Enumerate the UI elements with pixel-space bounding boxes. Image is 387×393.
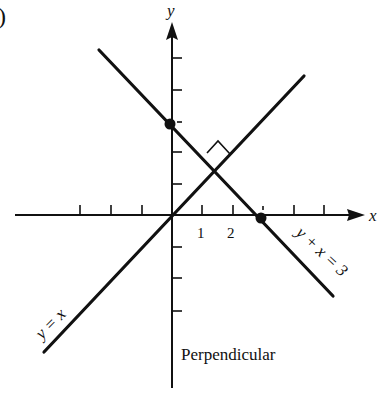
x-tick-label-1: 1 <box>197 225 205 241</box>
label-y-equals-x: y = x <box>30 304 70 344</box>
figure-label: ) <box>0 3 6 29</box>
line-y-plus-x-equals-3 <box>99 50 333 296</box>
caption: Perpendicular <box>181 345 276 364</box>
x-axis-ticks <box>80 205 324 215</box>
y-axis-ticks <box>172 58 182 311</box>
x-axis-label: x <box>368 206 377 225</box>
right-angle-marker <box>207 141 230 154</box>
x-axis-arrow-icon <box>347 209 365 221</box>
perpendicular-lines-diagram: ) 1 2 x y y = x y + x <box>0 0 387 393</box>
y-axis-label: y <box>165 1 175 20</box>
x-tick-label-2: 2 <box>227 225 235 241</box>
label-y-plus-x-equals-3: y + x = 3 <box>291 222 352 281</box>
x-intercept-point <box>256 213 267 224</box>
y-intercept-point <box>165 119 176 130</box>
